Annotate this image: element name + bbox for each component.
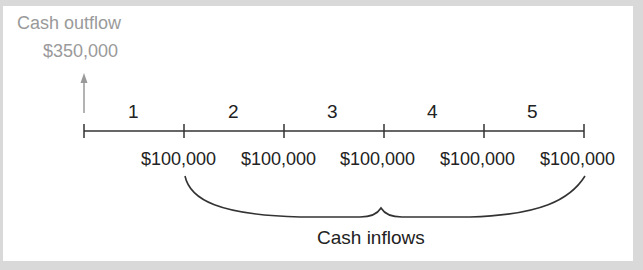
period-label-4: 4 (427, 102, 438, 121)
period-label-3: 3 (327, 102, 338, 121)
outflow-arrow-icon (81, 73, 88, 113)
inflow-amount-2: $100,000 (241, 150, 316, 168)
cash-outflow-amount: $350,000 (43, 42, 118, 60)
inflow-amount-4: $100,000 (440, 150, 515, 168)
period-label-5: 5 (527, 102, 538, 121)
inflow-amount-1: $100,000 (141, 150, 216, 168)
inflows-brace (185, 176, 585, 217)
period-label-2: 2 (228, 102, 239, 121)
inflow-amount-5: $100,000 (540, 150, 615, 168)
inflow-amount-3: $100,000 (340, 150, 415, 168)
period-label-1: 1 (128, 102, 139, 121)
cash-inflows-label: Cash inflows (317, 228, 425, 247)
cash-outflow-label: Cash outflow (17, 14, 121, 32)
